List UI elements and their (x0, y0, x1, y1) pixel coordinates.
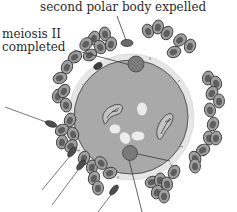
label-meiosis-line2: completed (2, 41, 66, 54)
female-pronucleus (128, 56, 144, 72)
fertilization-diagram: second polar body expelled meiosis II co… (0, 0, 237, 212)
label-meiosis-completed: meiosis II completed (2, 28, 66, 54)
sperm-2 (42, 146, 78, 190)
sperm-1 (5, 107, 58, 129)
label-second-polar-body: second polar body expelled (40, 1, 206, 14)
second-polar-body (121, 40, 133, 47)
male-pronucleus (123, 146, 138, 161)
sperm-3 (52, 159, 87, 205)
